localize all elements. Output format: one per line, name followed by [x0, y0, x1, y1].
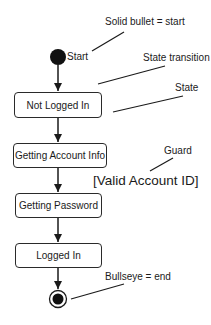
annotation-end-note: Bullseye = end — [105, 271, 171, 282]
state-label: Getting Password — [19, 200, 98, 211]
start-label: Start — [67, 51, 88, 62]
leader-transition-note — [98, 66, 165, 84]
annotation-state-note: State — [175, 82, 198, 93]
state-not-logged-in: Not Logged In — [14, 92, 102, 118]
guard-condition: [Valid Account ID] — [93, 173, 199, 188]
leader-start-note — [92, 32, 124, 51]
leader-state-note — [113, 96, 183, 112]
state-label: Not Logged In — [27, 100, 90, 111]
leader-end-note — [71, 284, 124, 299]
annotation-transition-note: State transition — [143, 52, 210, 63]
leader-guard-note — [150, 158, 173, 171]
state-label: Getting Account Info — [15, 150, 105, 161]
state-getting-account-info: Getting Account Info — [13, 143, 107, 168]
state-label: Logged In — [36, 250, 81, 261]
annotation-start-note: Solid bullet = start — [105, 16, 185, 27]
annotation-guard-note: Guard — [164, 145, 192, 156]
start-node-icon — [50, 49, 66, 65]
state-getting-password: Getting Password — [15, 193, 102, 218]
state-logged-in: Logged In — [15, 243, 102, 268]
end-node-icon — [50, 291, 67, 308]
